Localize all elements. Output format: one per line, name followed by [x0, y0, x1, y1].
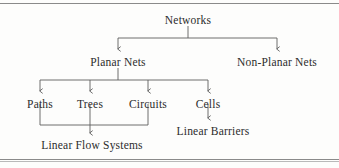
- node-planar-nets[interactable]: Planar Nets: [90, 56, 146, 68]
- node-trees[interactable]: Trees: [77, 98, 103, 110]
- node-non-planar-nets[interactable]: Non-Planar Nets: [237, 56, 317, 68]
- node-circuits[interactable]: Circuits: [129, 98, 167, 110]
- node-linear-flow-systems[interactable]: Linear Flow Systems: [41, 139, 143, 151]
- node-cells[interactable]: Cells: [196, 98, 221, 110]
- node-linear-barriers[interactable]: Linear Barriers: [177, 125, 250, 137]
- diagram-canvas: Networks Planar Nets Non-Planar Nets Pat…: [0, 0, 339, 168]
- node-paths[interactable]: Paths: [27, 98, 53, 110]
- node-networks[interactable]: Networks: [165, 14, 211, 26]
